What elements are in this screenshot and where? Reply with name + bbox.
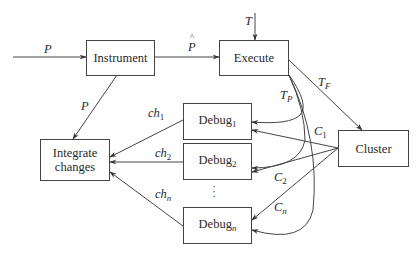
label-c1: C1 [314,124,327,140]
label-ch2: ch2 [155,146,171,162]
integrate-label-line1: Integrate [53,146,97,160]
edge-c2 [252,148,338,172]
label-cn: Cn [274,200,287,216]
label-p-input: P [44,42,52,57]
edge-chn [110,172,183,226]
edge-tf [289,60,362,130]
label-c2: C2 [274,170,287,186]
cluster-label: Cluster [355,142,391,156]
label-t-input: T [245,14,252,29]
cluster-node: Cluster [338,130,409,167]
debug1-node: Debug1 [183,103,252,140]
label-ch1: ch1 [148,106,164,122]
edge-tp-debug2 [252,75,305,168]
ellipsis-dots: ··· [211,184,217,199]
debug2-node: Debug2 [183,143,252,180]
label-chn: chn [155,187,171,203]
debugn-label: Debugn [199,217,237,235]
debug1-label: Debug1 [199,113,237,131]
label-p-down: P [81,99,89,114]
execute-label: Execute [234,51,274,65]
label-tp: TP [280,88,292,104]
debug2-label: Debug2 [199,153,237,171]
label-p-hat: ^P [188,40,196,55]
label-tf: TF [318,75,330,91]
debugn-node: Debugn [183,207,252,244]
edge-ch1 [110,120,183,157]
edge-cn [252,148,338,220]
integrate-changes-node: Integrate changes [40,139,110,181]
instrument-label: Instrument [93,51,147,65]
execute-node: Execute [219,40,289,76]
instrument-node: Instrument [86,40,155,76]
integrate-label-line2: changes [55,160,95,174]
edge-tp-debug1 [252,75,303,123]
edge-p-integrate [73,75,117,139]
